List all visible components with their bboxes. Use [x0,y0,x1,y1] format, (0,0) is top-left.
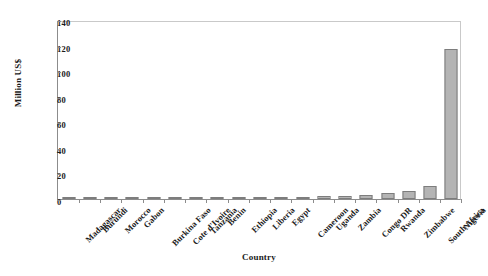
x-axis-tick-mark [334,199,335,203]
bar [296,197,309,199]
bar [105,197,118,199]
bar [232,197,245,199]
bar [168,197,181,199]
x-axis-tick-mark [313,199,314,203]
x-axis-tick-mark [143,199,144,203]
bar-slot [356,22,377,199]
bar [381,193,394,199]
y-axis-tick-label: 120 [57,44,75,54]
bar [317,196,330,199]
y-axis-tick-label: 40 [57,146,71,156]
y-axis-tick-label: 0 [57,197,66,207]
x-axis-tick-mark [355,199,356,203]
x-axis-tick-mark [291,199,292,203]
bar-slot [79,22,100,199]
bar-slot [228,22,249,199]
y-axis-tick-mark [57,21,61,22]
bar-slot [313,22,334,199]
bar-slot [207,22,228,199]
x-axis-tick-mark [249,199,250,203]
bar-slot [292,22,313,199]
bar-slot [398,22,419,199]
bar-slot [186,22,207,199]
bar [190,197,203,199]
y-axis-tick-label: 60 [57,120,71,130]
bar-slot [101,22,122,199]
y-axis-title: Million US$ [13,28,23,138]
x-axis-tick-mark [398,199,399,203]
bar-slot [377,22,398,199]
x-axis-tick-mark [376,199,377,203]
x-axis-tick-mark [121,199,122,203]
bar [402,191,415,199]
bar-slot [122,22,143,199]
bar-slot [271,22,292,199]
bar [126,197,139,199]
bar-slot [441,22,462,199]
y-axis-tick-mark [57,98,61,99]
x-axis-tick-mark [228,199,229,203]
bar-slot [143,22,164,199]
y-axis-tick-mark [57,72,61,73]
x-axis-tick-mark [270,199,271,203]
bar [253,197,266,199]
x-axis-tick-mark [79,199,80,203]
bar [360,195,373,199]
y-axis-tick-mark [57,47,61,48]
bar [275,197,288,199]
bar [339,196,352,199]
x-axis-tick-mark [440,199,441,203]
x-axis-tick-mark [100,199,101,203]
bar [424,186,437,199]
y-axis-tick-mark [57,149,61,150]
x-axis-category-label: Zambia [355,205,383,233]
plot-area [57,21,461,200]
y-axis-tick-label: 140 [57,18,75,28]
bar-slot [249,22,270,199]
bar-slot [419,22,440,199]
bar [83,197,96,199]
y-axis-tick-label: 100 [57,69,75,79]
y-axis-tick-label: 80 [57,95,71,105]
bar [211,197,224,199]
y-axis-tick-mark [57,123,61,124]
x-axis-tick-mark [461,199,462,203]
bar-slot [334,22,355,199]
bar [147,197,160,199]
x-axis-tick-mark [206,199,207,203]
y-axis-tick-mark [57,174,61,175]
bar-slot [164,22,185,199]
bars-layer [58,22,460,199]
x-axis-tick-mark [419,199,420,203]
x-axis-tick-mark [185,199,186,203]
y-axis-tick-label: 20 [57,171,71,181]
bar [445,49,458,199]
y-axis-tick-mark [57,200,61,201]
x-axis-title: Country [57,252,461,262]
x-axis-tick-mark [164,199,165,203]
